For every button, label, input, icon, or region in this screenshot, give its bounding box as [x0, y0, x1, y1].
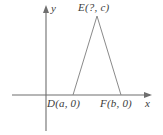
triangle-def-sides — [73, 16, 121, 95]
vertex-label-f: F(b, 0) — [100, 98, 132, 109]
y-axis-label: y — [51, 3, 56, 14]
geometry-figure: E(?, c) D(a, 0) F(b, 0) x y — [0, 0, 163, 135]
x-axis-label: x — [145, 98, 150, 109]
coordinate-axes-diagram — [0, 0, 163, 135]
vertex-label-d: D(a, 0) — [47, 98, 80, 109]
y-axis-arrowhead — [43, 5, 49, 13]
vertex-label-e: E(?, c) — [78, 2, 109, 13]
